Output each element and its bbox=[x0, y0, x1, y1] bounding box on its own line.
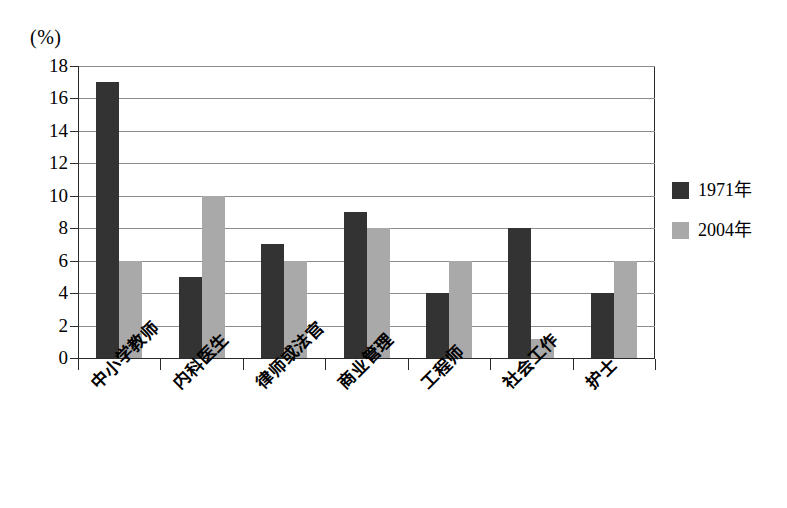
y-axis-tick-labels: 181614121086420 bbox=[12, 0, 68, 508]
y-axis-tick-label: 16 bbox=[24, 88, 68, 107]
gridline bbox=[78, 131, 655, 132]
y-axis-tick bbox=[70, 326, 79, 327]
gridline bbox=[78, 98, 655, 99]
y-axis-tick-label: 12 bbox=[24, 153, 68, 172]
bar bbox=[591, 293, 614, 358]
y-axis-tick-label: 2 bbox=[24, 316, 68, 335]
legend: 1971年 2004年 bbox=[672, 181, 782, 261]
y-axis-tick bbox=[70, 293, 79, 294]
x-axis-tick bbox=[490, 359, 491, 370]
gridline bbox=[78, 66, 655, 67]
grouped-bar-chart: (%) 181614121086420 1971年 2004年 中小学教师内科医… bbox=[0, 0, 787, 508]
legend-item-label: 1971年 bbox=[698, 181, 752, 199]
y-axis-tick-label: 6 bbox=[24, 251, 68, 270]
legend-item-label: 2004年 bbox=[698, 221, 752, 239]
gridline bbox=[78, 163, 655, 164]
y-axis-tick bbox=[70, 163, 79, 164]
y-axis-tick-label: 10 bbox=[24, 186, 68, 205]
x-axis-tick bbox=[243, 359, 244, 370]
y-axis-tick-label: 14 bbox=[24, 121, 68, 140]
y-axis-tick-label: 0 bbox=[24, 348, 68, 367]
y-axis-tick bbox=[70, 66, 79, 67]
y-axis-tick bbox=[70, 131, 79, 132]
x-axis-tick bbox=[408, 359, 409, 370]
x-axis-tick bbox=[325, 359, 326, 370]
y-axis-tick-label: 4 bbox=[24, 283, 68, 302]
legend-item[interactable]: 2004年 bbox=[672, 221, 782, 239]
x-axis-tick bbox=[160, 359, 161, 370]
gray-square-swatch-icon bbox=[672, 222, 689, 239]
y-axis-tick bbox=[70, 196, 79, 197]
bar bbox=[261, 244, 284, 358]
plot-area bbox=[78, 66, 655, 358]
y-axis-tick bbox=[70, 261, 79, 262]
y-axis-tick-label: 8 bbox=[24, 218, 68, 237]
legend-item[interactable]: 1971年 bbox=[672, 181, 782, 199]
y-axis-tick bbox=[70, 228, 79, 229]
bar bbox=[344, 212, 367, 358]
y-axis-tick bbox=[70, 98, 79, 99]
y-axis-tick-label: 18 bbox=[24, 56, 68, 75]
gridline bbox=[78, 196, 655, 197]
x-axis-tick bbox=[655, 359, 656, 370]
bar bbox=[96, 82, 119, 358]
x-axis-tick bbox=[573, 359, 574, 370]
x-axis-tick bbox=[78, 359, 79, 370]
bar bbox=[614, 261, 637, 358]
bar bbox=[508, 228, 531, 358]
dark-square-swatch-icon bbox=[672, 182, 689, 199]
